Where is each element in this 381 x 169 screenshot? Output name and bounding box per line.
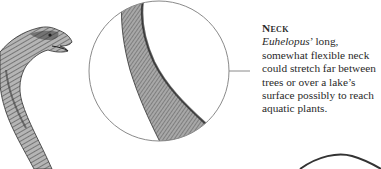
partial-arc	[300, 155, 381, 169]
magnifier-circle	[89, 0, 229, 142]
caption-species: Euhelopus	[262, 35, 310, 47]
caption-block: Neck Euhelopus’ long, somewhat flexible …	[262, 22, 381, 116]
dinosaur-head-neck	[0, 27, 72, 169]
caption-heading: Neck	[262, 22, 381, 35]
